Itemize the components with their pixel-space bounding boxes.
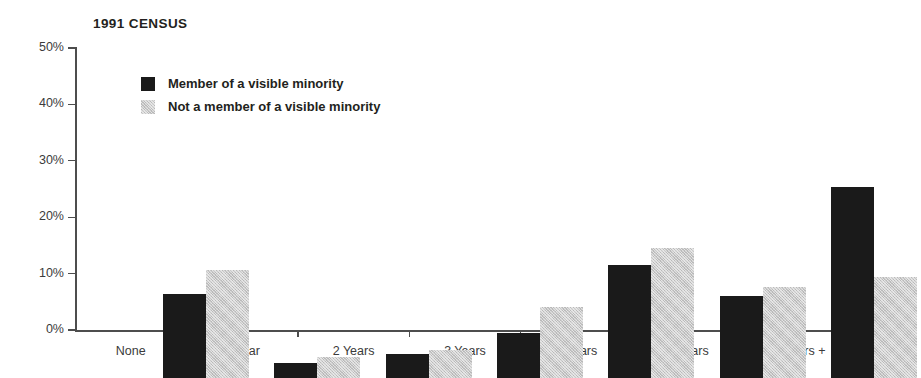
y-axis-tick [68,217,75,218]
bar-member [163,294,206,378]
legend-label-member: Member of a visible minority [168,76,344,91]
bar-member [386,354,429,378]
legend-item-member: Member of a visible minority [141,72,380,95]
bar-group [819,96,921,378]
bar-group [707,96,818,378]
y-axis-tick-label-wrap: 40% [14,96,64,112]
chart-title: 1991 CENSUS [93,16,187,31]
y-axis-tick [68,160,75,161]
bar-not-member [317,357,360,378]
bar-member [831,187,874,378]
bar-group [373,96,484,378]
y-axis-tick [68,329,75,330]
bar-not-member [540,307,583,378]
y-axis-tick [68,104,75,105]
y-axis-tick-label-wrap: 30% [14,153,64,169]
y-axis-tick-label: 30% [20,153,64,167]
y-axis-tick-label: 50% [20,40,64,54]
y-axis-tick [68,273,75,274]
y-axis-tick-label-wrap: 20% [14,209,64,225]
y-axis-tick-label: 40% [20,96,64,110]
y-axis-tick [68,47,75,48]
chart-legend: Member of a visible minority Not a membe… [141,72,380,118]
y-axis-tick-label: 0% [20,322,64,336]
bar-member [720,296,763,378]
legend-swatch-light-icon [141,100,155,114]
bar-member [274,363,317,378]
y-axis-tick-label-wrap: 0% [14,322,64,338]
bar-member [608,265,651,378]
bar-not-member [763,287,806,378]
bar-group [150,96,261,378]
legend-item-not-member: Not a member of a visible minority [141,95,380,118]
bar-member [497,333,540,378]
legend-label-not-member: Not a member of a visible minority [168,99,380,114]
bar-not-member [874,277,917,378]
y-axis-tick-label: 20% [20,209,64,223]
y-axis-tick-label-wrap: 10% [14,266,64,282]
bar-group [261,96,372,378]
bar-not-member [429,350,472,378]
bar-group [596,96,707,378]
bar-not-member [651,248,694,378]
y-axis-tick-label: 10% [20,266,64,280]
legend-swatch-dark-icon [141,77,155,91]
bar-not-member [206,270,249,378]
y-axis-tick-label-wrap: 50% [14,40,64,56]
bar-group [484,96,595,378]
